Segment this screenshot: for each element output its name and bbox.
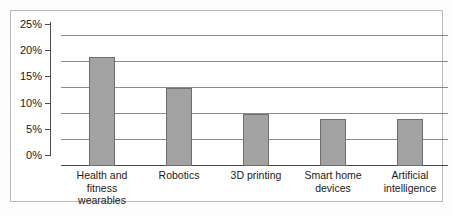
y-axis-labels: 25% 20% 15% 10% 5% 0% (0, 0, 453, 216)
y-tick-label-0: 0% (8, 150, 42, 161)
y-tick-label-15: 15% (8, 71, 42, 82)
bar-chart-figure: Health and fitness wearables Robotics 3D… (0, 0, 453, 216)
y-tick-label-25: 25% (8, 19, 42, 30)
y-tick-label-20: 20% (8, 45, 42, 56)
y-tick-label-5: 5% (8, 124, 42, 135)
y-tick-label-10: 10% (8, 98, 42, 109)
